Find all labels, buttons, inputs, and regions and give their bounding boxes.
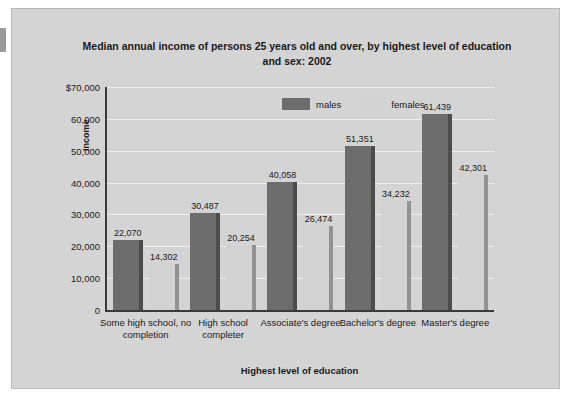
bar-group: 30,48720,254High school completer [184, 87, 261, 310]
x-tick-label: Master's degree [409, 317, 501, 329]
chart-panel: Median annual income of persons 25 years… [11, 8, 560, 389]
chart-title: Median annual income of persons 25 years… [82, 39, 512, 69]
x-axis-label: Highest level of education [105, 365, 494, 376]
bar-males: 51,351 [345, 146, 375, 310]
y-tick-label: $70,000 [66, 82, 100, 93]
bar-value-label: 61,439 [424, 102, 452, 112]
bar-males: 30,487 [190, 213, 220, 310]
bar-shadow [293, 182, 297, 310]
bar-rect [381, 201, 411, 310]
bar-group: 40,05826,474Associate's degree [262, 87, 339, 310]
bar-value-label: 42,301 [460, 163, 488, 173]
bar-value-label: 26,474 [305, 214, 333, 224]
bar-rect [149, 264, 179, 310]
bar-rect [267, 182, 297, 310]
bar-value-label: 51,351 [346, 134, 374, 144]
y-tick-label: 50,000 [71, 145, 100, 156]
y-tick-label: 40,000 [71, 177, 100, 188]
bar-group: 22,07014,302Some high school, no complet… [107, 87, 184, 310]
bar-females: 26,474 [303, 226, 333, 310]
bar-rect [190, 213, 220, 310]
bar-shadow [139, 240, 143, 310]
page-edge-mark [0, 28, 6, 52]
y-tick-label: 20,000 [71, 241, 100, 252]
bar-rect [226, 245, 256, 310]
y-tick-label: 30,000 [71, 209, 100, 220]
y-tick-label: 60,000 [71, 113, 100, 124]
bar-males: 40,058 [267, 182, 297, 310]
bar-value-label: 30,487 [191, 201, 219, 211]
plot-area: Income $70,00060,00050,00040,00030,00020… [105, 87, 494, 312]
bar-rect [345, 146, 375, 310]
bar-shadow [329, 226, 333, 310]
y-tick-label: 0 [95, 305, 100, 316]
bar-rect [422, 114, 452, 310]
bar-rect [458, 175, 488, 310]
bar-value-label: 34,232 [382, 189, 410, 199]
bar-rect [113, 240, 143, 310]
bar-value-label: 20,254 [227, 233, 255, 243]
bar-males: 22,070 [113, 240, 143, 310]
bar-shadow [448, 114, 452, 310]
bar-females: 42,301 [458, 175, 488, 310]
bar-value-label: 40,058 [269, 170, 297, 180]
bar-females: 34,232 [381, 201, 411, 310]
y-tick-label: 10,000 [71, 273, 100, 284]
bar-shadow [252, 245, 256, 310]
bar-rect [303, 226, 333, 310]
bar-value-label: 22,070 [114, 228, 142, 238]
bar-males: 61,439 [422, 114, 452, 310]
bar-group: 51,35134,232Bachelor's degree [339, 87, 416, 310]
bar-group: 61,43942,301Master's degree [417, 87, 494, 310]
bar-shadow [484, 175, 488, 310]
bar-shadow [216, 213, 220, 310]
bar-shadow [407, 201, 411, 310]
bar-shadow [175, 264, 179, 310]
chart-figure: Median annual income of persons 25 years… [0, 0, 568, 396]
bar-females: 14,302 [149, 264, 179, 310]
bar-value-label: 14,302 [150, 252, 178, 262]
bar-shadow [371, 146, 375, 310]
bar-females: 20,254 [226, 245, 256, 310]
